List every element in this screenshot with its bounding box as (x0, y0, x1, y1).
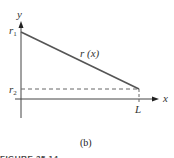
x-axis-label: x (163, 93, 168, 104)
r-of-x-line (21, 32, 139, 89)
curve-label: r (x) (80, 48, 99, 59)
r2-subscript: 2 (13, 89, 17, 97)
diagram-canvas (0, 0, 174, 158)
figure-caption: FIGURE 35.14 (0, 154, 58, 158)
y-axis-arrow-icon (19, 21, 24, 28)
panel-label: (b) (80, 137, 92, 148)
x-axis-arrow-icon (152, 97, 159, 102)
r2-label: r2 (9, 84, 17, 99)
L-label: L (135, 104, 141, 115)
y-axis-label: y (17, 9, 22, 20)
r1-subscript: 1 (13, 30, 17, 38)
r1-label: r1 (9, 25, 17, 40)
